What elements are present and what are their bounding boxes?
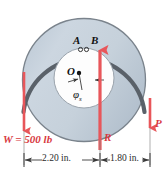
label-force-p: P — [155, 117, 162, 129]
label-force-r: R — [104, 131, 111, 143]
label-point-b: B — [91, 34, 98, 46]
label-force-w: W = 500 lb — [3, 133, 52, 145]
dimension-label-left: 2.20 in. — [42, 153, 71, 163]
angle-phi-subscript: s — [79, 95, 82, 103]
label-angle-phi: φs — [73, 88, 82, 103]
free-body-diagram-figure: A B O φs W = 500 lb R P 2.20 in. 1.80 in… — [0, 0, 168, 175]
label-point-a: A — [73, 34, 80, 46]
dimension-label-right: 1.80 in. — [110, 153, 139, 163]
diagram-canvas — [0, 0, 168, 175]
drum-hub — [54, 48, 114, 108]
label-center-o: O — [67, 65, 75, 77]
